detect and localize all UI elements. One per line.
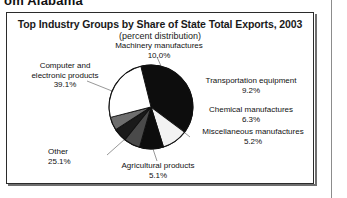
label-other: Other 25.1% (48, 147, 108, 166)
label-computer-line2: electronic products (31, 71, 98, 80)
label-chemical-pct: 6.3% (195, 115, 307, 125)
label-miscellaneous-line1: Miscellaneous manufactures (202, 127, 303, 136)
cut-off-page-heading: om Alabama (4, 0, 83, 8)
label-agricultural-products: Agricultural products 5.1% (103, 161, 213, 180)
label-transportation-line1: Transportation equipment (206, 76, 297, 85)
label-computer-line1: Computer and (40, 61, 91, 70)
label-miscellaneous-pct: 5.2% (193, 137, 313, 147)
label-transportation-equipment: Transportation equipment 9.2% (192, 76, 310, 95)
label-machinery-line1: Machinery manufactures (115, 41, 203, 50)
label-other-line1: Other (48, 147, 68, 156)
label-machinery-pct: 10.0% (101, 51, 217, 61)
pie-chart (105, 61, 197, 153)
label-other-pct: 25.1% (48, 157, 108, 167)
label-computer-electronic-products: Computer and electronic products 39.1% (19, 61, 111, 90)
label-agricultural-line1: Agricultural products (122, 161, 195, 170)
label-machinery-manufactures: Machinery manufactures 10.0% (101, 41, 217, 60)
label-agricultural-pct: 5.1% (103, 171, 213, 181)
label-chemical-manufactures: Chemical manufactures 6.3% (195, 105, 307, 124)
pie-svg (105, 61, 197, 153)
label-transportation-pct: 9.2% (192, 86, 310, 96)
label-chemical-line1: Chemical manufactures (209, 105, 293, 114)
label-miscellaneous-manufactures: Miscellaneous manufactures 5.2% (193, 127, 313, 146)
figure-container: Top Industry Groups by Share of State To… (6, 12, 314, 184)
label-computer-pct: 39.1% (19, 80, 111, 90)
page-margin-rule (331, 0, 332, 198)
figure-box-shadow-right (315, 14, 317, 186)
